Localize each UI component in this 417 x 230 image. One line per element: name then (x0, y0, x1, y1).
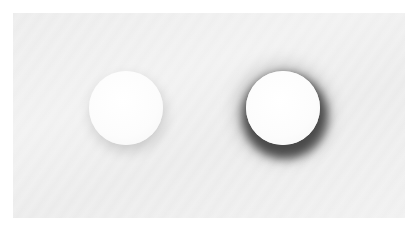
soft-shadow-circle (89, 71, 163, 145)
background-panel (13, 13, 405, 218)
strong-shadow-circle (246, 71, 320, 145)
